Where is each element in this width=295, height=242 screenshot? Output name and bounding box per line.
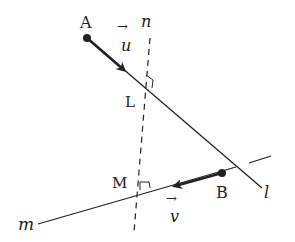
right-angle-marker-l xyxy=(146,75,153,88)
label-vector-v: v xyxy=(170,207,179,226)
point-b xyxy=(218,169,226,177)
line-m-extension xyxy=(249,156,271,163)
label-point-m: M xyxy=(112,174,127,192)
right-angle-marker-m xyxy=(140,182,150,190)
label-point-l: L xyxy=(125,93,135,111)
vector-v-arrow xyxy=(175,173,222,186)
label-line-n: n xyxy=(141,12,151,31)
point-a xyxy=(83,34,91,42)
line-n xyxy=(134,38,150,232)
label-point-a: A xyxy=(79,13,92,32)
label-line-l: l xyxy=(264,183,269,202)
label-point-b: B xyxy=(216,183,228,202)
label-vector-u: u xyxy=(121,36,131,55)
vector-v-overarrow: → xyxy=(166,191,177,206)
geometry-diagram: A L M B n l m → u → v xyxy=(0,0,295,242)
label-line-m: m xyxy=(18,214,34,234)
vector-u-overarrow: → xyxy=(117,19,128,34)
vector-u-arrow xyxy=(87,38,124,70)
